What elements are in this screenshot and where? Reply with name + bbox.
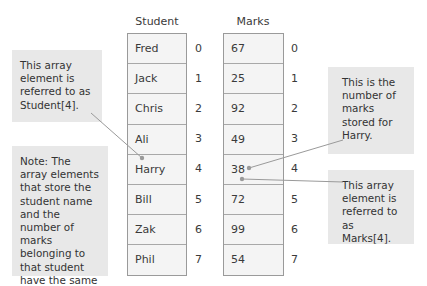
marks-cell: 54 [224, 244, 283, 274]
callout-same-index-note: Note: The array elements that store the … [12, 146, 108, 276]
marks-index: 0 [291, 33, 305, 63]
marks-index: 3 [291, 124, 305, 154]
marks-index-column: 0 1 2 3 4 5 6 7 [291, 33, 305, 275]
callout-marks-reference: This array element is referred to as Mar… [328, 170, 414, 244]
marks-index: 1 [291, 63, 305, 93]
student-cell: Zak [128, 214, 186, 244]
student-index: 3 [195, 124, 209, 154]
marks-cell: 92 [224, 93, 283, 123]
marks-array-header: Marks [223, 15, 283, 28]
marks-index: 6 [291, 214, 305, 244]
student-cell: Phil [128, 244, 186, 274]
student-cell: Jack [128, 63, 186, 93]
callout-student-reference: This array element is referred to as Stu… [12, 50, 102, 122]
student-array: Fred Jack Chris Ali Harry Bill Zak Phil [127, 33, 187, 276]
student-cell: Bill [128, 184, 186, 214]
student-index: 5 [195, 184, 209, 214]
student-index: 6 [195, 214, 209, 244]
student-index: 1 [195, 63, 209, 93]
marks-index: 5 [291, 184, 305, 214]
callout-marks-for-harry: This is the number of marks stored for H… [328, 67, 414, 154]
marks-cell: 72 [224, 184, 283, 214]
student-cell: Ali [128, 124, 186, 154]
marks-cell: 49 [224, 124, 283, 154]
student-index: 2 [195, 93, 209, 123]
marks-index: 2 [291, 93, 305, 123]
student-index: 7 [195, 244, 209, 274]
student-cell: Harry [128, 154, 186, 184]
marks-index: 4 [291, 154, 305, 184]
student-index-column: 0 1 2 3 4 5 6 7 [195, 33, 209, 275]
marks-cell: 25 [224, 63, 283, 93]
marks-index: 7 [291, 244, 305, 274]
marks-cell: 38 [224, 154, 283, 184]
student-index: 0 [195, 33, 209, 63]
student-cell: Chris [128, 93, 186, 123]
student-cell: Fred [128, 34, 186, 63]
marks-cell: 99 [224, 214, 283, 244]
marks-array: 67 25 92 49 38 72 99 54 [223, 33, 284, 276]
student-index: 4 [195, 154, 209, 184]
student-array-header: Student [127, 15, 187, 28]
marks-cell: 67 [224, 34, 283, 63]
